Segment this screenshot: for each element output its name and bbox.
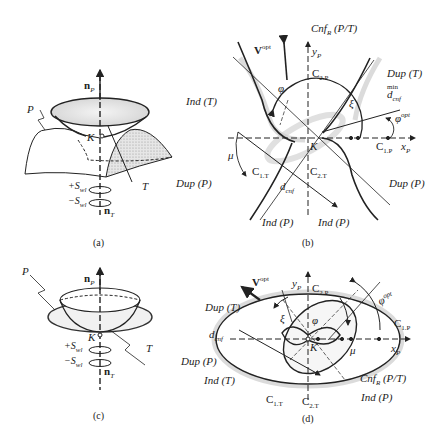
label-c2t-d: C2.T — [302, 396, 319, 410]
label-yp-b: yP — [312, 46, 321, 60]
caption-b: (b) — [302, 237, 314, 248]
label-dup-t-d: Dup (T) — [205, 302, 240, 313]
label-xi-b: ξ — [349, 98, 354, 109]
label-ind-p-left-b: Ind (P) — [262, 217, 293, 228]
label-dcnf-d: dcnf — [209, 329, 223, 343]
label-c2t-b: C2.T — [310, 166, 327, 180]
label-minus-swl: −Swl — [68, 196, 86, 209]
label-dup-t-b: Dup (T) — [387, 68, 422, 79]
label-ind-p-right-b: Ind (P) — [318, 217, 349, 228]
label-k-d: K — [310, 342, 317, 353]
label-mu-d: μ — [350, 345, 356, 356]
label-dcnf-min-b: dcnfmin — [387, 88, 412, 103]
label-vopt-d: Vopt — [252, 276, 269, 288]
label-c2p-b: C2.P — [312, 68, 329, 82]
label-contact-point-k-c: K — [88, 332, 95, 343]
label-phi-b: φ — [278, 83, 284, 94]
label-c1p-d: C1.P — [394, 318, 411, 332]
label-normal-t: nT — [104, 205, 114, 219]
surface-T-shaded — [106, 129, 172, 177]
label-vopt-b: Vopt — [254, 44, 271, 56]
label-plus-swl-c: +Swl — [64, 341, 82, 354]
label-normal-p: nP — [84, 80, 94, 94]
label-normal-t-c: nT — [104, 366, 114, 380]
label-c1t-d: C1.T — [266, 394, 283, 408]
label-normal-p-c: nP — [84, 273, 94, 287]
label-conformity-b: CnfR (P/T) — [311, 23, 357, 37]
label-ind-t-d: Ind (T) — [204, 375, 235, 386]
label-surface-t: T — [142, 181, 148, 192]
caption-c: (c) — [93, 410, 104, 421]
label-dcnf-b: dcnf — [280, 181, 294, 195]
label-dup-p-d: Dup (P) — [181, 356, 217, 367]
label-phi-opt-b: φopt — [395, 112, 410, 124]
label-dup-p-left-b: Dup (P) — [176, 178, 212, 189]
label-c1p-b: C1.P — [376, 141, 393, 155]
label-plus-swl: +Swl — [68, 181, 86, 194]
label-surface-p: P — [27, 104, 34, 115]
label-surface-t-c: T — [146, 343, 152, 354]
label-yp-d: yP — [292, 278, 301, 292]
label-conformity-d: CnfR (P/T) — [360, 373, 406, 387]
label-dup-p-right-b: Dup (P) — [389, 178, 425, 189]
label-c2p-d: C2.P — [312, 283, 329, 297]
label-xi-d: ξ — [280, 313, 285, 324]
panel-a-drawing — [25, 70, 172, 215]
label-c1t-b: C1.T — [252, 166, 269, 180]
label-surface-p-c: P — [22, 266, 29, 277]
label-ind-p-d: Ind (P) — [361, 392, 392, 403]
label-xp-b: xP — [401, 141, 410, 155]
label-minus-swl-c: −Swl — [64, 356, 82, 369]
caption-d: (d) — [302, 413, 314, 424]
label-ind-t-b: Ind (T) — [186, 96, 217, 107]
caption-a: (a) — [93, 237, 104, 248]
label-xp-d: xP — [391, 343, 400, 357]
label-k-b: K — [310, 141, 317, 152]
label-contact-point-k: K — [87, 132, 94, 143]
label-phi-d: φ — [312, 315, 318, 326]
label-mu-b: μ — [228, 150, 234, 161]
